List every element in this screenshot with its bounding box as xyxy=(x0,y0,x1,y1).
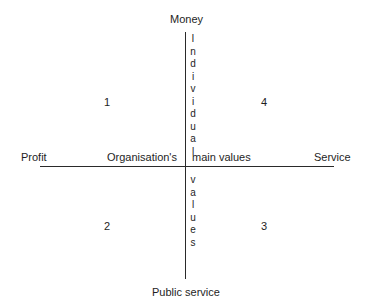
letter: a xyxy=(189,133,197,146)
letter: v xyxy=(189,174,197,187)
letter: l xyxy=(189,146,197,159)
axis-label-right: Service xyxy=(314,151,351,163)
letter: i xyxy=(189,71,197,84)
vertical-axis xyxy=(185,32,186,279)
quadrant-2-label: 2 xyxy=(104,220,110,232)
axis-label-bottom: Public service xyxy=(152,286,220,298)
letter: i xyxy=(189,96,197,109)
letter: e xyxy=(189,224,197,237)
quadrant-3-label: 3 xyxy=(261,220,267,232)
center-label-left: Organisation's xyxy=(107,151,177,163)
letter: d xyxy=(189,58,197,71)
vertical-word-individual: I n d i v i d u a l xyxy=(189,33,197,158)
letter: I xyxy=(189,33,197,46)
horizontal-axis xyxy=(40,166,334,167)
quadrant-4-label: 4 xyxy=(261,96,267,108)
letter: v xyxy=(189,83,197,96)
letter: d xyxy=(189,108,197,121)
letter: u xyxy=(189,212,197,225)
letter: l xyxy=(189,199,197,212)
letter: s xyxy=(189,237,197,250)
vertical-word-values: v a l u e s xyxy=(189,174,197,249)
letter: a xyxy=(189,187,197,200)
center-label-right: main values xyxy=(192,151,251,163)
axis-label-top: Money xyxy=(170,13,203,25)
quadrant-1-label: 1 xyxy=(104,96,110,108)
letter: u xyxy=(189,121,197,134)
letter: n xyxy=(189,46,197,59)
axis-label-left: Profit xyxy=(21,151,47,163)
